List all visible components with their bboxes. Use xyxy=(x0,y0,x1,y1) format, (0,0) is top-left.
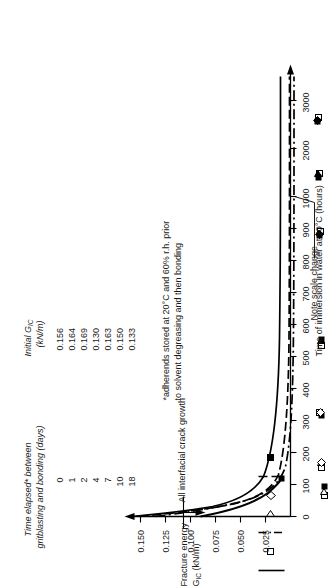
rotated-figure-canvas: Time elapsed* between gritblasting and b… xyxy=(0,0,331,588)
marker-cluster-60h xyxy=(320,483,327,498)
x-tick-900: 900 xyxy=(300,222,310,237)
x-tick-0: 0 xyxy=(300,514,310,519)
y-axis-title-line1: Fracture energy xyxy=(178,522,188,586)
y-tick-0025: 0.025 xyxy=(260,529,270,552)
x-tick-200: 200 xyxy=(300,446,310,461)
x-tick-400: 400 xyxy=(300,382,310,397)
y-tick-0150: 0.150 xyxy=(135,529,145,552)
curve-series-0days xyxy=(133,76,280,516)
annotation-crack-growth: All interfacial crack growth xyxy=(176,397,186,502)
x-axis-arrowhead xyxy=(287,64,294,74)
figure-page: Time elapsed* between gritblasting and b… xyxy=(0,0,331,588)
y-axis-title-line2: GIC (kN/m) xyxy=(190,543,201,586)
x-tick-2000: 2000 xyxy=(300,140,310,160)
annotation-note-scale-change: Note scale change xyxy=(308,245,318,320)
y-axis-title-subscript: IC xyxy=(194,572,201,579)
marker-cluster-150h xyxy=(317,458,325,470)
y-tick-0125: 0.125 xyxy=(160,529,170,552)
marker-cluster-1500h xyxy=(314,170,322,180)
y-axis-title-g: G xyxy=(190,579,200,586)
y-tick-0075: 0.075 xyxy=(210,529,220,552)
curve-series-10days xyxy=(139,76,289,516)
y-axis-title-units: (kN/m) xyxy=(190,543,200,573)
plot-graphics xyxy=(0,0,331,588)
x-tick-100: 100 xyxy=(300,478,310,493)
y-axis xyxy=(124,513,290,523)
x-tick-3000: 3000 xyxy=(300,92,310,112)
x-tick-500: 500 xyxy=(300,350,310,365)
marker-filled-square xyxy=(321,483,327,489)
marker-filled-square-plateau-end xyxy=(278,475,284,481)
y-tick-0050: 0.050 xyxy=(235,529,245,552)
y-axis-arrowhead xyxy=(124,513,134,520)
x-tick-300: 300 xyxy=(300,414,310,429)
x-tick-1000: 1000 xyxy=(300,188,310,208)
marker-cluster-310h xyxy=(316,408,324,418)
marker-cluster-2450h xyxy=(313,114,321,124)
